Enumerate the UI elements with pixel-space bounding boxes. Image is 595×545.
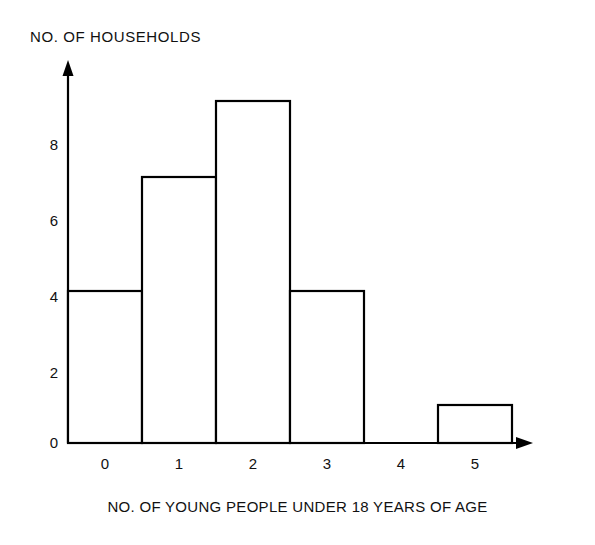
histogram-chart: NO. OF HOUSEHOLDS NO. OF YOUNG PEOPLE UN… [0, 0, 595, 545]
bar-category-0 [68, 291, 142, 443]
plot-area [0, 0, 595, 545]
bar-category-1 [142, 177, 216, 443]
y-axis-arrowhead-icon [63, 60, 74, 76]
bar-category-5 [438, 405, 512, 443]
bar-category-2 [216, 101, 290, 443]
bar-category-3 [290, 291, 364, 443]
x-axis-arrowhead-icon [516, 437, 533, 449]
bars-group [68, 101, 512, 443]
